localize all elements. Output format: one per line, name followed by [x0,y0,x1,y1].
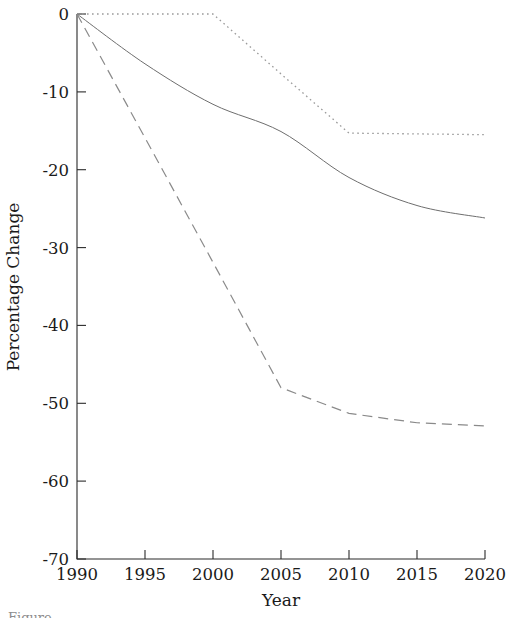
y-tickmarks [77,14,86,559]
y-tick-label: -40 [42,316,69,335]
y-tick-label: -50 [42,394,69,413]
series-dashed-line [77,14,485,426]
y-axis-title: Percentage Change [3,203,23,372]
y-tick-label: -60 [42,472,69,491]
x-tickmarks [77,550,485,559]
x-tick-label: 2000 [192,565,234,584]
x-axis-title: Year [261,590,301,610]
y-tick-labels: 0 -10 -20 -30 -40 -50 -60 -70 [42,5,69,569]
y-tick-label: 0 [59,5,70,24]
y-tick-label: -10 [42,83,69,102]
series-dotted-line [77,14,485,135]
x-tick-label: 2020 [464,565,506,584]
chart-figure: 0 -10 -20 -30 -40 -50 -60 -70 1990 1995 … [0,0,514,618]
y-tick-label: -20 [42,161,69,180]
page-caption-fragment: Figure [8,611,238,618]
x-tick-label: 2010 [328,565,370,584]
x-tick-label: 2015 [396,565,438,584]
x-tick-labels: 1990 1995 2000 2005 2010 2015 2020 [56,565,506,584]
x-tick-label: 1995 [124,565,166,584]
y-tick-label: -30 [42,239,69,258]
line-chart: 0 -10 -20 -30 -40 -50 -60 -70 1990 1995 … [0,0,514,618]
series-solid-line [77,14,485,218]
x-tick-label: 2005 [260,565,302,584]
axis-spines [77,14,485,559]
x-tick-label: 1990 [56,565,98,584]
series-group [77,14,485,426]
